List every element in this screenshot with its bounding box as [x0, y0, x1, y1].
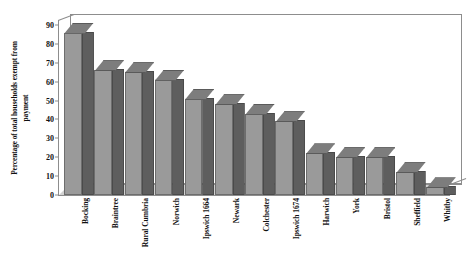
bar	[336, 144, 353, 195]
bar-front-face	[94, 70, 111, 195]
bar-side-face	[383, 156, 395, 195]
bar-side-face	[142, 71, 154, 195]
bar	[215, 91, 232, 195]
x-tick-label: Sheffield	[411, 198, 425, 272]
x-tick-label: York	[350, 198, 364, 272]
bar-front-face	[125, 72, 142, 195]
x-tick-label: Newark	[230, 198, 244, 272]
bar	[125, 59, 142, 195]
bar	[275, 108, 292, 195]
x-tick-label: Rural Cumbria	[139, 198, 153, 272]
bar-side-face	[323, 152, 335, 195]
bar	[396, 159, 413, 195]
y-tick-label: 80	[46, 39, 54, 48]
x-axis-labels: BockingBraintreeRural CumbriaNorwichIpsw…	[58, 198, 450, 272]
y-tick-label: 0	[50, 191, 54, 200]
bar-front-face	[366, 157, 383, 195]
bar-front-face	[396, 172, 413, 195]
x-tick-label: Ipswich 1664	[200, 198, 214, 272]
plot-area: 0102030405060708090	[58, 14, 462, 196]
bar-front-face	[185, 99, 202, 195]
bar	[64, 20, 81, 195]
x-tick-label: Whitby	[441, 198, 455, 272]
x-tick-label: Ipswich 1674	[290, 198, 304, 272]
bar-side-face	[82, 32, 94, 195]
bar-front-face	[426, 187, 443, 195]
y-tick-label: 70	[46, 58, 54, 67]
bar-side-face	[112, 69, 124, 195]
bar-side-face	[414, 171, 426, 195]
bar-front-face	[306, 153, 323, 195]
y-tick-label: 30	[46, 134, 54, 143]
bar-front-face	[245, 114, 262, 195]
bar	[94, 57, 111, 195]
bar	[245, 101, 262, 195]
x-tick-label: Bristol	[381, 198, 395, 272]
y-tick-label: 60	[46, 77, 54, 86]
bar-front-face	[275, 121, 292, 195]
bar-front-face	[64, 33, 81, 195]
x-tick-label: Harwich	[320, 198, 334, 272]
bar	[155, 67, 172, 195]
y-tick-label: 40	[46, 115, 54, 124]
bar-side-face	[172, 79, 184, 195]
y-tick-label: 20	[46, 153, 54, 162]
y-tick-label: 50	[46, 96, 54, 105]
y-tick-label: 10	[46, 172, 54, 181]
bar-front-face	[215, 104, 232, 195]
bar-side-face	[202, 98, 214, 195]
bar	[185, 86, 202, 195]
bar-side-face	[353, 156, 365, 195]
bar-side-face	[293, 120, 305, 195]
bar-side-face	[233, 103, 245, 195]
bar-side-face	[263, 113, 275, 195]
y-axis-title: Percentage of total households exempt fr…	[10, 8, 40, 208]
x-tick-label: Colchester	[260, 198, 274, 272]
y-tick-label: 90	[46, 21, 54, 30]
bar-chart-figure: Percentage of total households exempt fr…	[0, 0, 468, 272]
x-tick-label: Bocking	[79, 198, 93, 272]
x-tick-label: Norwich	[170, 198, 184, 272]
bar-front-face	[155, 80, 172, 195]
bar-front-face	[336, 157, 353, 195]
bar	[426, 174, 443, 195]
bar	[306, 140, 323, 195]
x-tick-label: Braintree	[109, 198, 123, 272]
bars-layer	[58, 14, 450, 196]
bar	[366, 144, 383, 195]
